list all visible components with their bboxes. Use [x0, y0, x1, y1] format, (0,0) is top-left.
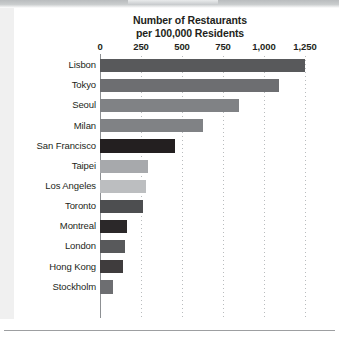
category-label-san-francisco: San Francisco [37, 139, 96, 152]
bar-milan [100, 119, 203, 132]
bar-san-francisco [100, 139, 175, 152]
bar-london [100, 240, 125, 253]
category-label-lisbon: Lisbon [69, 58, 96, 71]
bar-montreal [100, 220, 127, 233]
bar-taipei [100, 160, 148, 173]
category-label-toronto: Toronto [65, 199, 96, 212]
x-tick-label-250: 250 [133, 41, 149, 52]
category-label-milan: Milan [74, 119, 96, 132]
bar-rows: LisbonTokyoSeoulMilanSan FranciscoTaipei… [100, 56, 305, 318]
chart-title-line-1: Number of Restaurants [60, 14, 320, 27]
bar-row: Toronto [100, 197, 305, 217]
bar-seoul [100, 99, 239, 112]
bar-row: Stockholm [100, 278, 305, 298]
bar-row: Montreal [100, 217, 305, 237]
bar-row: Milan [100, 116, 305, 136]
bar-los-angeles [100, 180, 146, 193]
x-tick-label-0: 0 [97, 41, 102, 52]
chart-page: Number of Restaurants per 100,000 Reside… [0, 0, 339, 346]
bar-hong-kong [100, 260, 123, 273]
category-label-montreal: Montreal [60, 219, 96, 232]
chart-title-line-2: per 100,000 Residents [60, 27, 320, 40]
x-axis-tick-labels: 02505007501,0001,250 [0, 41, 339, 55]
chart-title: Number of Restaurants per 100,000 Reside… [60, 14, 320, 39]
bar-row: San Francisco [100, 137, 305, 157]
x-tick-label-1000: 1,000 [252, 41, 275, 52]
category-label-seoul: Seoul [72, 98, 96, 111]
plot-area: LisbonTokyoSeoulMilanSan FranciscoTaipei… [100, 56, 305, 318]
category-label-los-angeles: Los Angeles [45, 179, 96, 192]
bar-row: Seoul [100, 96, 305, 116]
bar-stockholm [100, 280, 113, 293]
category-label-hong-kong: Hong Kong [49, 260, 96, 273]
bar-row: Tokyo [100, 76, 305, 96]
x-tick-label-750: 750 [215, 41, 231, 52]
bar-lisbon [100, 59, 305, 72]
bar-row: Los Angeles [100, 177, 305, 197]
bottom-divider [4, 330, 335, 331]
gridline-1250 [305, 56, 306, 318]
x-tick-label-1250: 1,250 [293, 41, 316, 52]
bar-row: Lisbon [100, 56, 305, 76]
restaurants-bar-chart: Number of Restaurants per 100,000 Reside… [0, 0, 339, 330]
bar-row: Taipei [100, 157, 305, 177]
bar-tokyo [100, 79, 279, 92]
bar-row: London [100, 237, 305, 257]
category-label-london: London [65, 239, 96, 252]
bar-toronto [100, 200, 143, 213]
category-label-stockholm: Stockholm [53, 280, 96, 293]
bar-row: Hong Kong [100, 257, 305, 277]
x-tick-label-500: 500 [174, 41, 190, 52]
category-label-taipei: Taipei [72, 159, 96, 172]
category-label-tokyo: Tokyo [72, 78, 96, 91]
